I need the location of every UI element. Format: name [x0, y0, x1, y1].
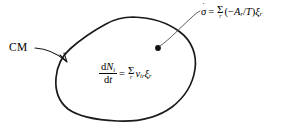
extent-rate-subscript: r [149, 72, 152, 79]
numerator-subscript: i [113, 66, 115, 73]
fraction-denominator: dt [102, 74, 114, 86]
stoichiometric-subscript: ir [140, 72, 144, 79]
fraction-numerator: dNi [99, 61, 117, 73]
equals-sign: = [208, 6, 214, 17]
summation-index: r [130, 75, 132, 81]
summation-operator: Σ r [217, 4, 223, 20]
cm-label: CM [9, 42, 28, 54]
entropy-production-equation: ˙ σ = Σ r ( − A r / T ) ξ r [201, 4, 262, 20]
derivative-fraction: dNi dt [99, 61, 117, 85]
sigma-dot-symbol: ˙ σ [201, 6, 206, 17]
affinity-subscript: r [240, 10, 243, 17]
denominator-t: t [109, 74, 112, 85]
extent-rate-subscript: r [260, 10, 263, 17]
mole-balance-equation: dNi dt = Σ r ν ir ξ r [99, 61, 151, 85]
figure-canvas: CM ˙ σ = Σ r ( − A r / T ) ξ r dNi [0, 0, 292, 129]
equals-sign: = [119, 68, 125, 79]
overdot-accent-icon: ˙ [202, 2, 205, 11]
summation-index: r [219, 14, 221, 20]
summation-operator: Σ r [128, 65, 134, 81]
entropy-leader-line [160, 11, 200, 46]
